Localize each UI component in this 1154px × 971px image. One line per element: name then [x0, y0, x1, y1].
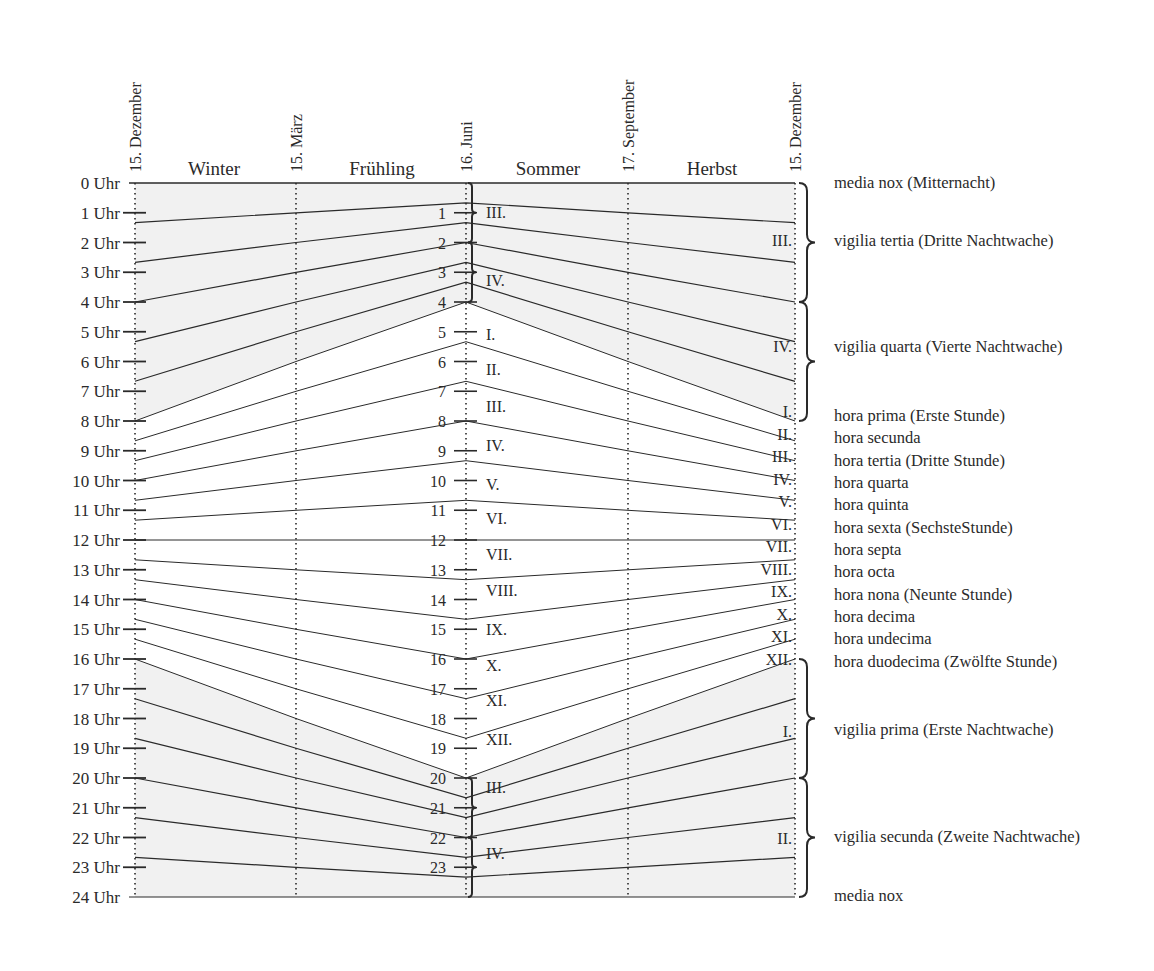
- right-brace-vigilia-secunda: [799, 778, 815, 897]
- center-hour-number: 12: [430, 532, 446, 549]
- right-roman-label: VIII.: [760, 561, 792, 578]
- hour-label: 21 Uhr: [72, 799, 120, 818]
- center-roman-label: IV.: [486, 437, 505, 454]
- hour-label: 23 Uhr: [72, 858, 120, 877]
- legend-item: hora secunda: [834, 428, 921, 447]
- hour-label: 16 Uhr: [72, 650, 120, 669]
- hour-label: 8 Uhr: [81, 412, 121, 431]
- center-hour-number: 17: [430, 681, 446, 698]
- season-label: Sommer: [516, 158, 581, 179]
- right-roman-label: VI.: [771, 516, 792, 533]
- legend-item: hora tertia (Dritte Stunde): [834, 451, 1005, 470]
- right-brace-vigilia-tertia: [799, 183, 815, 302]
- hour-label: 18 Uhr: [72, 710, 120, 729]
- center-hour-number: 15: [430, 621, 446, 638]
- hour-label: 4 Uhr: [81, 293, 121, 312]
- legend-item: hora quarta: [834, 473, 909, 492]
- right-roman-label: IV.: [773, 338, 792, 355]
- hour-label: 22 Uhr: [72, 829, 120, 848]
- diagram-canvas: 0 Uhr1 Uhr2 Uhr3 Uhr4 Uhr5 Uhr6 Uhr7 Uhr…: [0, 0, 1154, 971]
- legend-item: hora duodecima (Zwölfte Stunde): [834, 652, 1057, 671]
- center-hour-number: 1: [438, 205, 446, 222]
- season-label: Frühling: [349, 158, 415, 179]
- season-label: Winter: [188, 158, 241, 179]
- legend-item: vigilia secunda (Zweite Nachtwache): [834, 827, 1080, 846]
- date-label: 15. Dezember: [127, 82, 144, 172]
- center-roman-label: III.: [486, 204, 506, 221]
- center-hour-number: 10: [430, 473, 446, 490]
- center-roman-label: IV.: [486, 272, 505, 289]
- center-roman-label: XII.: [486, 731, 512, 748]
- center-roman-label: V.: [486, 476, 500, 493]
- legend-item: hora undecima: [834, 629, 932, 648]
- center-hour-number: 20: [430, 770, 446, 787]
- hour-label: 11 Uhr: [73, 501, 120, 520]
- right-roman-label: IV.: [773, 471, 792, 488]
- hour-label: 3 Uhr: [81, 263, 121, 282]
- center-hour-number: 2: [438, 235, 446, 252]
- legend-item: vigilia prima (Erste Nachtwache): [834, 720, 1053, 739]
- legend-item: media nox (Mitternacht): [834, 173, 995, 192]
- right-roman-label: XII.: [766, 651, 792, 668]
- center-roman-label: II.: [486, 361, 501, 378]
- hour-label: 19 Uhr: [72, 739, 120, 758]
- center-hour-number: 9: [438, 443, 446, 460]
- hour-label: 0 Uhr: [81, 174, 121, 193]
- legend: media nox (Mitternacht)vigilia tertia (D…: [834, 173, 1080, 905]
- right-roman-label: III.: [772, 448, 792, 465]
- center-roman-label: VII.: [486, 546, 512, 563]
- right-roman-label: I.: [783, 723, 792, 740]
- center-hour-number: 4: [438, 294, 446, 311]
- hour-label: 7 Uhr: [81, 382, 121, 401]
- hour-label: 10 Uhr: [72, 472, 120, 491]
- hour-label: 24 Uhr: [72, 888, 120, 907]
- legend-item: hora quinta: [834, 495, 909, 514]
- right-roman-label: XI.: [771, 628, 792, 645]
- center-hour-number: 18: [430, 711, 446, 728]
- right-brace-vigilia-quarta: [799, 302, 815, 421]
- hour-label: 5 Uhr: [81, 323, 121, 342]
- center-roman-label: IV.: [486, 845, 505, 862]
- center-roman-label: XI.: [486, 692, 507, 709]
- roman-hours-diagram: 0 Uhr1 Uhr2 Uhr3 Uhr4 Uhr5 Uhr6 Uhr7 Uhr…: [0, 0, 1154, 971]
- hour-label: 12 Uhr: [72, 531, 120, 550]
- center-hour-number: 5: [438, 324, 446, 341]
- hour-label: 6 Uhr: [81, 353, 121, 372]
- center-roman-label: III.: [486, 398, 506, 415]
- hour-label: 20 Uhr: [72, 769, 120, 788]
- right-roman-label: IX.: [771, 583, 792, 600]
- center-hour-number: 11: [431, 502, 446, 519]
- center-hour-number: 7: [438, 383, 446, 400]
- center-roman-label: VIII.: [486, 582, 518, 599]
- legend-item: hora octa: [834, 562, 896, 581]
- right-roman-label: II.: [777, 830, 792, 847]
- center-hour-number: 21: [430, 800, 446, 817]
- center-hour-number: 8: [438, 413, 446, 430]
- center-hour-number: 3: [438, 264, 446, 281]
- hour-label: 13 Uhr: [72, 561, 120, 580]
- center-roman-label: I.: [486, 326, 495, 343]
- right-brace-vigilia-prima: [799, 659, 815, 778]
- legend-item: hora sexta (SechsteStunde): [834, 518, 1013, 537]
- legend-item: hora nona (Neunte Stunde): [834, 585, 1012, 604]
- legend-item: media nox: [834, 886, 904, 905]
- season-label: Herbst: [687, 158, 738, 179]
- center-roman-label: III.: [486, 779, 506, 796]
- center-hour-number: 19: [430, 740, 446, 757]
- center-hour-number: 23: [430, 859, 446, 876]
- right-roman-label: I.: [783, 403, 792, 420]
- center-hour-number: 22: [430, 830, 446, 847]
- date-label: 15. März: [288, 114, 305, 172]
- center-hour-number: 14: [430, 592, 446, 609]
- right-roman-label: III.: [772, 232, 792, 249]
- center-roman-label: VI.: [486, 510, 507, 527]
- date-label: 15. Dezember: [787, 82, 804, 172]
- date-label: 17. September: [620, 79, 638, 172]
- legend-item: vigilia tertia (Dritte Nachtwache): [834, 231, 1053, 250]
- hour-label: 2 Uhr: [81, 234, 121, 253]
- legend-item: hora decima: [834, 607, 916, 626]
- right-roman-label: X.: [776, 606, 792, 623]
- legend-item: vigilia quarta (Vierte Nachtwache): [834, 337, 1063, 356]
- date-label: 16. Juni: [458, 121, 475, 172]
- center-roman-label: X.: [486, 657, 502, 674]
